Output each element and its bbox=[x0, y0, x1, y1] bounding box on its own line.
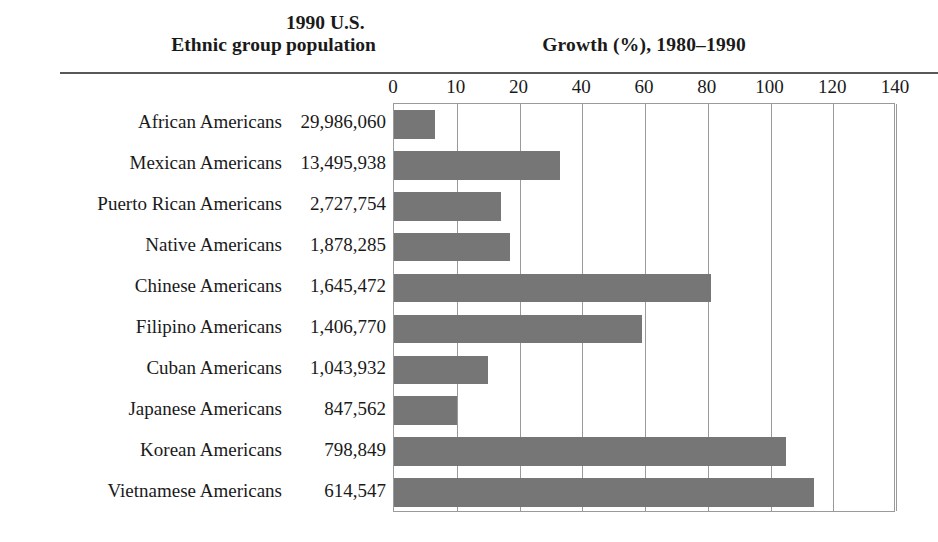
bar-row bbox=[394, 192, 894, 221]
category-label: Korean Americans bbox=[20, 439, 282, 461]
category-label: African Americans bbox=[20, 111, 282, 133]
population-value: 1,043,932 bbox=[286, 357, 386, 379]
bar-row bbox=[394, 396, 894, 425]
x-tick-label-10: 10 bbox=[433, 76, 479, 98]
x-tick-label-100: 100 bbox=[747, 76, 793, 98]
x-tick-label-40: 40 bbox=[558, 76, 604, 98]
chart-header: Ethnic group 1990 U.S. population Growth… bbox=[0, 6, 938, 68]
population-value: 13,495,938 bbox=[286, 152, 386, 174]
category-label: Cuban Americans bbox=[20, 357, 282, 379]
bar-row bbox=[394, 315, 894, 344]
population-value: 614,547 bbox=[286, 480, 386, 502]
category-label: Mexican Americans bbox=[20, 152, 282, 174]
category-label: Vietnamese Americans bbox=[20, 480, 282, 502]
category-label: Japanese Americans bbox=[20, 398, 282, 420]
category-label: Chinese Americans bbox=[20, 275, 282, 297]
population-value: 1,645,472 bbox=[286, 275, 386, 297]
gridline-140 bbox=[896, 104, 897, 511]
bar-row bbox=[394, 151, 894, 180]
bar bbox=[394, 233, 510, 262]
bar bbox=[394, 478, 814, 507]
column-header-population-line1: 1990 U.S. bbox=[286, 12, 365, 33]
plot-area bbox=[393, 103, 895, 512]
x-tick-label-0: 0 bbox=[370, 76, 416, 98]
bar-row bbox=[394, 478, 894, 507]
bar bbox=[394, 274, 711, 303]
bar bbox=[394, 437, 786, 466]
population-value: 798,849 bbox=[286, 439, 386, 461]
column-header-population: 1990 U.S. population bbox=[286, 12, 394, 56]
bar bbox=[394, 315, 642, 344]
category-label-column: African Americans29,986,060Mexican Ameri… bbox=[0, 103, 388, 512]
bar bbox=[394, 396, 457, 425]
bar-row bbox=[394, 437, 894, 466]
bar-row bbox=[394, 233, 894, 262]
population-value: 1,878,285 bbox=[286, 234, 386, 256]
x-tick-label-80: 80 bbox=[684, 76, 730, 98]
column-header-ethnic-group: Ethnic group bbox=[88, 34, 282, 56]
population-value: 1,406,770 bbox=[286, 316, 386, 338]
category-label: Native Americans bbox=[20, 234, 282, 256]
category-label: Puerto Rican Americans bbox=[20, 193, 282, 215]
bar-row bbox=[394, 274, 894, 303]
bar bbox=[394, 356, 488, 385]
x-axis-tick-labels: 01020406080100120140 bbox=[0, 76, 938, 102]
population-value: 29,986,060 bbox=[286, 111, 386, 133]
chart-title: Growth (%), 1980–1990 bbox=[393, 34, 895, 56]
x-tick-label-20: 20 bbox=[496, 76, 542, 98]
bar bbox=[394, 151, 560, 180]
chart-figure: Ethnic group 1990 U.S. population Growth… bbox=[0, 0, 938, 542]
header-divider-rule bbox=[60, 72, 938, 74]
category-label: Filipino Americans bbox=[20, 316, 282, 338]
population-value: 847,562 bbox=[286, 398, 386, 420]
bar-row bbox=[394, 110, 894, 139]
column-header-population-line2: population bbox=[286, 34, 394, 56]
x-tick-label-140: 140 bbox=[872, 76, 918, 98]
population-value: 2,727,754 bbox=[286, 193, 386, 215]
bar-row bbox=[394, 356, 894, 385]
bar bbox=[394, 110, 435, 139]
x-tick-label-60: 60 bbox=[621, 76, 667, 98]
x-tick-label-120: 120 bbox=[809, 76, 855, 98]
bar bbox=[394, 192, 501, 221]
